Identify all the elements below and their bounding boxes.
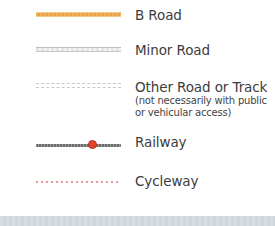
railway-station-icon (88, 140, 97, 149)
bottom-divider-strip (0, 216, 275, 226)
legend-label-other-road: Other Road or Track (135, 79, 267, 95)
legend-label-railway: Railway (135, 134, 186, 150)
other-road-dashed-line-icon (36, 83, 121, 88)
cycleway-dotted-line-icon (36, 181, 121, 183)
minor-road-line-icon (36, 47, 121, 52)
legend-label-b-road: B Road (135, 7, 182, 23)
legend-sublabel-other-road-line2: or vehicular access) (135, 107, 231, 119)
legend-label-cycleway: Cycleway (135, 173, 198, 189)
b-road-line-icon (36, 12, 121, 17)
railway-line-icon (36, 144, 121, 147)
legend-sublabel-other-road-line1: (not necessarily with public (135, 95, 267, 107)
legend-label-minor-road: Minor Road (135, 42, 210, 58)
